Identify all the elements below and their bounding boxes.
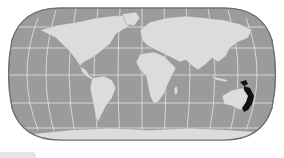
footer-bar [0, 152, 36, 158]
world-map [0, 0, 284, 158]
